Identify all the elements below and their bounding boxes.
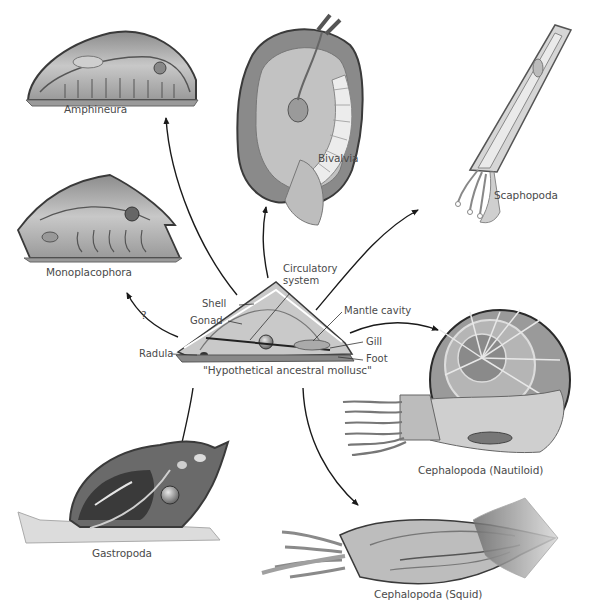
part-label-system: system	[283, 275, 319, 286]
part-label-foot: Foot	[366, 353, 388, 364]
arrow-to-bivalvia	[263, 207, 268, 278]
mollusc-evolution-diagram: Amphineura Bivalvia Scaphopoda Monoplaco…	[0, 0, 590, 615]
part-label-radula: Radula	[139, 348, 173, 359]
monoplacophora-illustration	[18, 175, 182, 262]
arrow-to-squid	[303, 388, 358, 505]
amphineura-illustration	[26, 31, 198, 106]
label-amphineura: Amphineura	[64, 103, 127, 115]
part-label-gill: Gill	[366, 336, 382, 347]
label-hypothetical-ancestral-mollusc: "Hypothetical ancestral mollusc"	[203, 364, 372, 376]
nautiloid-illustration	[343, 310, 570, 455]
part-label-mantle-cavity: Mantle cavity	[344, 305, 411, 316]
part-label-gonad: Gonad	[190, 315, 223, 326]
label-scaphopoda: Scaphopoda	[494, 189, 558, 201]
label-cephalopoda-squid: Cephalopoda (Squid)	[374, 588, 482, 600]
squid-illustration	[262, 498, 558, 595]
question-mark-uncertain: ?	[141, 309, 146, 321]
arrow-to-amphineura	[166, 118, 237, 295]
arrow-to-nautiloid	[350, 323, 438, 333]
arrow-to-scaphopoda	[316, 210, 418, 310]
label-monoplacophora: Monoplacophora	[46, 266, 132, 278]
part-label-shell: Shell	[202, 298, 226, 309]
label-bivalvia: Bivalvia	[318, 152, 358, 164]
label-gastropoda: Gastropoda	[92, 547, 152, 559]
bivalvia-illustration	[237, 15, 362, 225]
label-cephalopoda-nautiloid: Cephalopoda (Nautiloid)	[418, 464, 543, 476]
part-label-circulatory: Circulatory	[283, 263, 337, 274]
gastropoda-illustration	[18, 442, 228, 543]
arrow-to-monoplacophora	[127, 293, 178, 337]
diagram-artwork	[0, 0, 590, 615]
